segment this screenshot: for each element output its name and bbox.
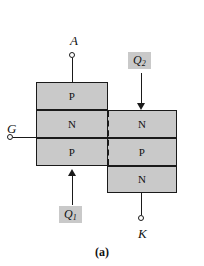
anode-lead-wire [72, 58, 73, 82]
label-q1-sub: 1 [73, 213, 77, 222]
layer-right-n-bottom-label: N [138, 174, 146, 185]
label-q1-base: Q [64, 207, 73, 221]
terminal-a-label: A [70, 34, 78, 47]
q2-arrow-shaft [141, 73, 142, 105]
label-q1: Q1 [59, 206, 82, 223]
cathode-lead-wire [141, 193, 142, 215]
layer-left-p-bottom: P [36, 138, 108, 166]
layer-right-n-bottom: N [107, 166, 177, 193]
terminal-k-label: K [138, 227, 147, 240]
layer-left-p-top: P [36, 82, 108, 110]
terminal-k-dot [138, 215, 144, 221]
layer-left-p-top-label: P [69, 91, 75, 102]
figure-caption: (a) [0, 245, 204, 260]
label-q2-base: Q [133, 53, 142, 67]
layer-right-n-top: N [107, 110, 177, 138]
layer-right-p: P [107, 138, 177, 166]
terminal-g-label: G [7, 122, 16, 135]
layer-right-p-label: P [139, 147, 145, 158]
q2-arrow-head-icon [137, 103, 145, 110]
layer-left-p-bottom-label: P [69, 147, 75, 158]
thyristor-two-transistor-figure: A P N P N P N G K Q2 Q1 (a) [0, 0, 204, 266]
gate-lead-wire [13, 137, 37, 138]
junction-dashed-divider [107, 111, 109, 165]
layer-left-n-label: N [68, 119, 76, 130]
label-q2-sub: 2 [142, 59, 146, 68]
layer-left-n: N [36, 110, 108, 138]
layer-right-n-top-label: N [138, 119, 146, 130]
label-q2: Q2 [128, 52, 151, 69]
q1-arrow-shaft [72, 175, 73, 205]
